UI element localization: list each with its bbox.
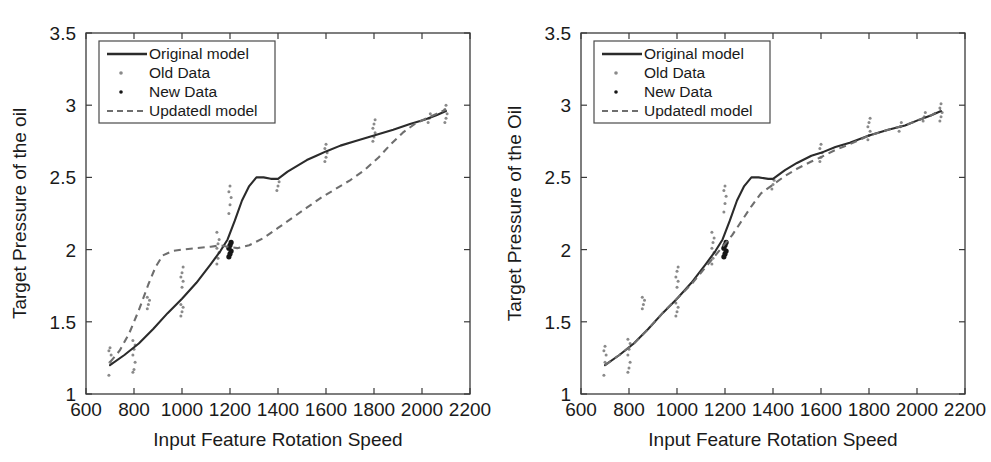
data-point: [134, 361, 137, 364]
data-point: [443, 121, 446, 124]
legend-item-label: Updatedl model: [149, 102, 258, 119]
data-point: [677, 265, 680, 268]
data-point: [445, 117, 448, 120]
data-point: [446, 112, 449, 115]
data-point: [710, 263, 713, 266]
legend-item-label: Original model: [149, 45, 249, 62]
data-point: [215, 247, 218, 250]
legend-item-label: Old Data: [644, 64, 706, 81]
data-point: [215, 263, 218, 266]
data-point: [429, 112, 432, 115]
data-point: [445, 104, 448, 107]
data-point: [217, 242, 220, 245]
data-point: [900, 121, 903, 124]
legend-swatch-dot: [614, 90, 618, 94]
data-point: [109, 346, 112, 349]
data-point: [148, 299, 151, 302]
data-point: [604, 345, 607, 348]
data-point: [110, 354, 113, 357]
data-point: [770, 187, 773, 190]
x-tick-label: 1000: [656, 399, 698, 420]
series-line-updated-model: [605, 110, 941, 366]
data-point: [710, 231, 713, 234]
y-axis-title: Target Pressure of the oil: [9, 108, 30, 319]
data-point: [182, 306, 185, 309]
series-line-updated-model: [110, 110, 446, 363]
data-point: [181, 286, 184, 289]
x-axis-title: Input Feature Rotation Speed: [648, 429, 897, 450]
data-point: [373, 122, 376, 125]
legend-swatch-dot: [614, 71, 618, 75]
data-point: [229, 203, 232, 206]
y-tick-label: 3: [560, 95, 571, 116]
old-data-scatter: [107, 104, 448, 377]
legend-item-label: Original model: [644, 45, 744, 62]
data-point: [325, 143, 328, 146]
data-point: [938, 120, 941, 123]
data-point: [643, 299, 646, 302]
data-point: [724, 202, 727, 205]
chart-panel-right: 600800100012001400160018002000220011.522…: [495, 0, 991, 462]
data-point: [278, 180, 281, 183]
x-tick-label: 1600: [305, 399, 347, 420]
legend-item-label: New Data: [149, 83, 217, 100]
data-point: [628, 367, 631, 370]
data-point: [713, 237, 716, 240]
data-point: [602, 349, 605, 352]
x-tick-label: 2200: [449, 399, 491, 420]
chart-panel-left: 600800100012001400160018002000220011.522…: [0, 0, 496, 462]
y-tick-label: 2: [560, 240, 571, 261]
data-point: [629, 361, 632, 364]
data-point: [229, 185, 232, 188]
plot-canvas-left: 600800100012001400160018002000220011.522…: [0, 0, 496, 462]
data-point: [227, 190, 230, 193]
legend-swatch-dot: [119, 90, 123, 94]
data-point: [371, 127, 374, 130]
data-point: [277, 185, 280, 188]
figure-two-panel-chart: 600800100012001400160018002000220011.522…: [0, 0, 991, 462]
data-point: [818, 147, 821, 150]
data-point: [146, 296, 149, 299]
data-point: [325, 156, 328, 159]
data-point: [107, 374, 110, 377]
data-point: [131, 339, 134, 342]
data-point: [866, 138, 869, 141]
data-point: [179, 315, 182, 318]
x-tick-label: 1800: [353, 399, 395, 420]
data-point: [626, 338, 629, 341]
x-tick-label: 1200: [209, 399, 251, 420]
x-tick-label: 1400: [752, 399, 794, 420]
data-point: [371, 140, 374, 143]
data-point: [722, 189, 725, 192]
data-point: [131, 371, 134, 374]
x-tick-label: 800: [613, 399, 645, 420]
data-point: [605, 354, 608, 357]
data-point: [869, 117, 872, 120]
y-tick-label: 1.5: [50, 312, 76, 333]
y-axis-title: Target Pressure of the Oil: [504, 106, 525, 321]
data-point: [866, 125, 869, 128]
legend-swatch-dot: [119, 71, 123, 75]
series-line-original-model: [605, 111, 941, 365]
data-point: [218, 238, 221, 241]
data-point: [323, 160, 326, 163]
data-point: [131, 354, 134, 357]
data-point: [626, 371, 629, 374]
data-point: [181, 271, 184, 274]
data-point: [642, 303, 645, 306]
data-point: [818, 160, 821, 163]
data-point: [179, 276, 182, 279]
data-point: [924, 111, 927, 114]
x-tick-label: 1000: [161, 399, 203, 420]
data-point: [107, 349, 110, 352]
series-line-original-model: [110, 111, 446, 365]
x-tick-label: 800: [118, 399, 150, 420]
data-point: [229, 240, 234, 245]
y-tick-label: 2: [65, 240, 76, 261]
x-tick-label: 2000: [401, 399, 443, 420]
new-data-scatter: [226, 240, 233, 260]
y-tick-label: 3.5: [50, 23, 76, 44]
data-point: [676, 270, 679, 273]
data-point: [181, 310, 184, 313]
data-point: [133, 368, 136, 371]
